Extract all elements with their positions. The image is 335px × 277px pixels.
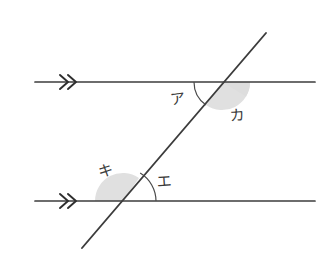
angle-label-ka: カ: [229, 108, 245, 124]
angle-label-e: エ: [156, 174, 172, 190]
geometry-figure: ア カ キ エ: [0, 0, 335, 277]
angle-arc-a: [194, 82, 206, 105]
transversal-line: [82, 33, 266, 248]
angle-label-ki: キ: [97, 162, 114, 179]
angle-label-a: ア: [170, 91, 187, 108]
diagram-canvas: [0, 0, 335, 277]
